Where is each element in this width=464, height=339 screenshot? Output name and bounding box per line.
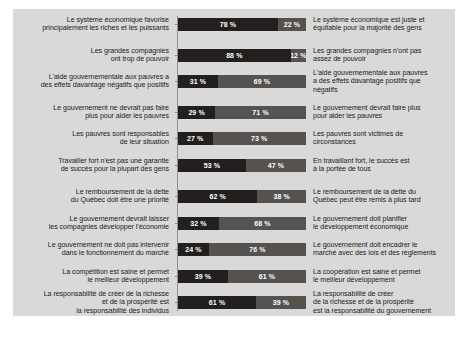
row-right-label: La responsabilité de créerde la richesse… xyxy=(306,290,455,316)
left-label-line: Les grandes compagnies xyxy=(13,47,169,56)
left-label-line: le meilleur développement xyxy=(13,276,169,285)
bar-value-right: 73 % xyxy=(251,135,267,142)
bar-segment-left: 32 % xyxy=(178,217,219,230)
bar-row: Le gouvernement ne devrait pas faireplus… xyxy=(13,103,455,122)
bar-segment-left: 78 % xyxy=(178,18,278,31)
bar-value-right: 22 % xyxy=(284,21,300,28)
bar-value-left: 39 % xyxy=(195,273,211,280)
bar-row: Les grandes compagniesont trop de pouvoi… xyxy=(13,46,455,65)
stacked-bar: 61 %39 % xyxy=(178,296,306,309)
left-label-line: ont trop de pouvoir xyxy=(13,55,169,64)
row-left-label: Le remboursement de la dettedu Québec do… xyxy=(13,188,175,205)
left-label-line: de leur situation xyxy=(13,138,169,147)
bar-segment-right: 47 % xyxy=(246,159,306,172)
bar-row: Le gouvernement devrait laisserles compa… xyxy=(13,214,455,233)
right-label-line: Le gouvernement doit encadrer le xyxy=(313,241,455,250)
right-label-line: marché avec des lois et des règlements xyxy=(313,249,455,258)
bar-row: La compétition est saine et permetle mei… xyxy=(13,267,455,286)
right-label-line: est la responsabilité du gouvernement xyxy=(313,307,455,316)
bar-value-left: 61 % xyxy=(209,299,225,306)
right-label-line: pour aider les pauvres xyxy=(313,112,455,121)
bar-value-left: 31 % xyxy=(190,78,206,85)
bar-segment-left: 61 % xyxy=(178,296,256,309)
row-right-label: Le remboursement de la dette duQuébec pe… xyxy=(306,188,455,205)
bar-segment-left: 39 % xyxy=(178,270,228,283)
row-left-label: Le gouvernement ne devrait pas faireplus… xyxy=(13,104,175,121)
bar-row: Le remboursement de la dettedu Québec do… xyxy=(13,187,455,206)
row-right-label: Les grandes compagnies n'ont pasassez de… xyxy=(306,47,455,64)
stacked-bar: 88 %12 % xyxy=(178,49,306,62)
left-label-line: Le gouvernement devrait laisser xyxy=(13,215,169,224)
row-left-label: La compétition est saine et permetle mei… xyxy=(13,268,175,285)
bar-segment-right: 39 % xyxy=(256,296,306,309)
row-left-label: La responsabilité de créer de la richess… xyxy=(13,290,175,316)
right-label-line: négatifs xyxy=(313,86,455,95)
right-label-line: le meilleur développement xyxy=(313,276,455,285)
left-label-line: La compétition est saine et permet xyxy=(13,268,169,277)
right-label-line: assez de pouvoir xyxy=(313,55,455,64)
row-right-label: Le gouvernement doit planifierle dévelop… xyxy=(306,215,455,232)
stacked-bar: 29 %71 % xyxy=(178,106,306,119)
left-label-line: les compagnies développer l'économie xyxy=(13,223,169,232)
bar-value-right: 71 % xyxy=(252,109,268,116)
right-label-line: à la portée de tous xyxy=(313,165,455,174)
bar-segment-right: 68 % xyxy=(219,217,306,230)
left-label-line: Le système économique favorise xyxy=(13,16,169,25)
bar-value-right: 76 % xyxy=(249,246,265,253)
stacked-bar: 27 %73 % xyxy=(178,132,306,145)
right-label-line: Le gouvernement doit planifier xyxy=(313,215,455,224)
left-label-line: La responsabilité de créer de la richess… xyxy=(13,290,169,299)
bar-row: L'aide gouvernementale aux pauvres ades … xyxy=(13,68,455,96)
bar-value-right: 12 % xyxy=(291,52,306,59)
bar-segment-right: 38 % xyxy=(257,190,306,203)
row-right-label: Les pauvres sont victimes decirconstance… xyxy=(306,130,455,147)
row-left-label: Le gouvernement ne doit pas intervenirda… xyxy=(13,241,175,258)
right-label-line: équitable pour la majorité des gens xyxy=(313,24,455,33)
right-label-line: Les grandes compagnies n'ont pas xyxy=(313,47,455,56)
bar-segment-left: 24 % xyxy=(178,243,209,256)
left-label-line: des effets davantage négatifs que positi… xyxy=(13,81,169,90)
bar-segment-left: 27 % xyxy=(178,132,213,145)
right-label-line: La responsabilité de créer xyxy=(313,290,455,299)
right-label-line: Le système économique est juste et xyxy=(313,16,455,25)
left-label-line: Le gouvernement ne devrait pas faire xyxy=(13,104,169,113)
chart-panel: Le système économique favoriseprincipale… xyxy=(13,9,455,316)
bar-segment-right: 73 % xyxy=(213,132,306,145)
stacked-bar: 78 %22 % xyxy=(178,18,306,31)
row-right-label: Le gouvernement devrait faire pluspour a… xyxy=(306,104,455,121)
bar-value-left: 27 % xyxy=(187,135,203,142)
right-label-line: de la richesse et de la prospérité xyxy=(313,298,455,307)
left-label-line: Le remboursement de la dette xyxy=(13,188,169,197)
row-left-label: Le gouvernement devrait laisserles compa… xyxy=(13,215,175,232)
bar-segment-right: 22 % xyxy=(278,18,306,31)
bar-value-left: 29 % xyxy=(188,109,204,116)
bar-segment-left: 29 % xyxy=(178,106,215,119)
bar-value-left: 32 % xyxy=(190,220,206,227)
right-label-line: a des effets davantage positifs que xyxy=(313,77,455,86)
bar-row: Le système économique favoriseprincipale… xyxy=(13,15,455,34)
left-label-line: plus pour aider les pauvres xyxy=(13,112,169,121)
bar-rows-container: Le système économique favoriseprincipale… xyxy=(13,9,455,316)
left-label-line: dans le fonctionnement du marché xyxy=(13,249,169,258)
right-label-line: Le gouvernement devrait faire plus xyxy=(313,104,455,113)
left-label-line: la responsabilité des individus xyxy=(13,307,169,316)
left-label-line: du Québec doit être une priorité xyxy=(13,196,169,205)
bar-segment-right: 12 % xyxy=(291,49,306,62)
bar-row: Travailler fort n'est pas une garantiede… xyxy=(13,156,455,175)
bar-segment-left: 53 % xyxy=(178,159,246,172)
stacked-bar: 32 %68 % xyxy=(178,217,306,230)
row-left-label: Les pauvres sont responsablesde leur sit… xyxy=(13,130,175,147)
row-left-label: L'aide gouvernementale aux pauvres ades … xyxy=(13,73,175,90)
bar-value-left: 53 % xyxy=(204,162,220,169)
bar-value-right: 68 % xyxy=(254,220,270,227)
right-label-line: Québec peut être remis à plus tard xyxy=(313,196,455,205)
bar-value-right: 38 % xyxy=(273,193,289,200)
right-label-line: circonstances xyxy=(313,138,455,147)
stacked-bar: 53 %47 % xyxy=(178,159,306,172)
bar-value-left: 62 % xyxy=(210,193,226,200)
right-label-line: L'aide gouvernementale aux pauvres xyxy=(313,69,455,78)
row-right-label: La coopération est saine et permetle mei… xyxy=(306,268,455,285)
left-label-line: de succès pour la plupart des gens xyxy=(13,165,169,174)
row-right-label: L'aide gouvernementale aux pauvresa des … xyxy=(306,69,455,95)
bar-value-left: 88 % xyxy=(226,52,242,59)
